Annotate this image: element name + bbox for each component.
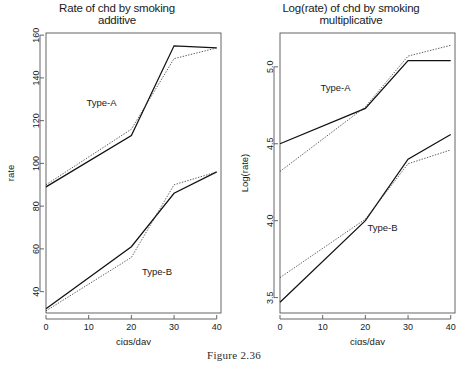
series-line-typeb-solid [46, 172, 217, 309]
x-axis-title: cigs/day [350, 336, 385, 345]
y-tick-label-1: 4.0 [265, 214, 275, 227]
x-tick-label-3: 30 [169, 322, 179, 332]
y-tick-label-3: 100 [31, 156, 41, 171]
x-axis-title: cigs/day [116, 336, 151, 345]
x-tick-label-2: 20 [360, 322, 370, 332]
x-tick-label-1: 10 [84, 322, 94, 332]
x-tick-label-2: 20 [126, 322, 136, 332]
x-tick-label-4: 40 [212, 322, 222, 332]
series-annotation-1: Type-B [367, 222, 397, 233]
y-axis-title: Log(rate) [239, 154, 250, 193]
x-tick-label-0: 0 [43, 322, 48, 332]
y-tick-label-2: 80 [31, 201, 41, 211]
plot-frame [46, 33, 221, 313]
y-tick-label-6: 160 [31, 28, 41, 43]
series-line-typeb-dotted [280, 150, 451, 278]
x-tick-label-0: 0 [277, 322, 282, 332]
series-line-typea-solid [280, 61, 451, 144]
figure-caption: Figure 2.36 [0, 349, 468, 361]
y-tick-label-5: 140 [31, 70, 41, 85]
y-axis-title: rate [5, 165, 16, 181]
x-tick-label-1: 10 [318, 322, 328, 332]
figure-container: Rate of chd by smoking additive 40608010… [0, 0, 468, 377]
y-tick-label-1: 60 [31, 244, 41, 254]
y-tick-label-2: 4.5 [265, 138, 275, 151]
y-tick-label-0: 3.5 [265, 291, 275, 304]
series-line-typeb-solid [280, 135, 451, 303]
chart-panel-multiplicative: Log(rate) of chd by smoking multiplicati… [234, 0, 468, 345]
series-annotation-0: Type-A [86, 97, 117, 108]
plot-area-multiplicative: 3.54.04.55.0010203040cigs/dayLog(rate)Ty… [234, 0, 468, 345]
chart-panel-additive: Rate of chd by smoking additive 40608010… [0, 0, 234, 345]
x-tick-label-3: 30 [403, 322, 413, 332]
plot-frame [280, 33, 455, 313]
series-annotation-1: Type-B [142, 266, 172, 277]
y-tick-label-3: 5.0 [265, 61, 275, 74]
x-tick-label-4: 40 [446, 322, 456, 332]
series-annotation-0: Type-A [320, 82, 351, 93]
series-line-typea-dotted [46, 48, 217, 185]
y-tick-label-4: 120 [31, 113, 41, 128]
plot-area-additive: 406080100120140160010203040cigs/dayrateT… [0, 0, 234, 345]
series-line-typea-solid [46, 46, 217, 187]
y-tick-label-0: 40 [31, 287, 41, 297]
